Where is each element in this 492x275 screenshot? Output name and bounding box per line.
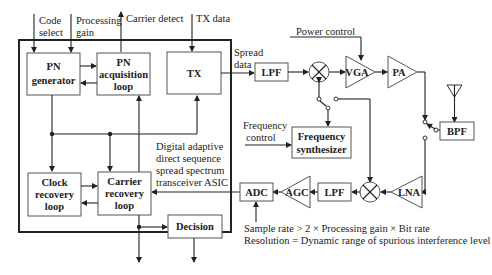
power-control-label: Power control <box>296 26 355 37</box>
lo-switch <box>317 82 338 110</box>
svg-text:recovery: recovery <box>35 189 75 200</box>
code-select-label: Code <box>39 15 62 26</box>
svg-text:loop: loop <box>114 81 133 92</box>
sample-rate-note: Sample rate > 2 × Processing gain × Bit … <box>244 223 430 234</box>
svg-text:synthesizer: synthesizer <box>296 144 346 155</box>
svg-text:Decision: Decision <box>176 221 214 232</box>
carrier-detect-label: Carrier detect <box>126 13 184 24</box>
svg-text:acquisition: acquisition <box>99 69 148 80</box>
svg-text:LPF: LPF <box>262 67 282 78</box>
tx-rx-switch <box>423 120 440 140</box>
transceiver-block-diagram: Code select Processing gain Carrier dete… <box>0 0 492 275</box>
svg-text:PA: PA <box>392 67 406 78</box>
svg-text:direct sequence: direct sequence <box>156 153 221 164</box>
svg-text:recovery: recovery <box>105 188 145 199</box>
svg-text:Clock: Clock <box>41 177 67 188</box>
svg-text:PN: PN <box>117 57 131 68</box>
svg-text:Carrier: Carrier <box>107 176 142 187</box>
asic-label: Digital adaptive <box>156 141 224 152</box>
antenna-icon <box>447 85 462 122</box>
svg-text:transceiver ASIC: transceiver ASIC <box>156 177 228 188</box>
svg-text:LPF: LPF <box>325 187 345 198</box>
svg-text:LNA: LNA <box>398 187 421 198</box>
svg-text:VGA: VGA <box>345 67 369 78</box>
frequency-control-label: Frequency <box>243 120 288 131</box>
svg-text:spread spectrum: spread spectrum <box>156 165 225 176</box>
svg-text:BPF: BPF <box>447 126 467 137</box>
svg-text:loop: loop <box>45 201 64 212</box>
tx-mixer <box>309 62 329 82</box>
svg-text:control: control <box>246 132 276 143</box>
code-select-label-2: select <box>39 27 63 38</box>
svg-text:loop: loop <box>115 200 134 211</box>
svg-text:generator: generator <box>32 75 76 86</box>
rx-mixer <box>360 182 380 202</box>
svg-text:Frequency: Frequency <box>298 131 346 142</box>
svg-text:PN: PN <box>47 61 61 72</box>
processing-gain-label: Processing <box>76 15 122 26</box>
svg-text:TX: TX <box>187 68 202 79</box>
resolution-note: Resolution = Dynamic range of spurious i… <box>244 235 491 246</box>
svg-text:data: data <box>234 59 252 70</box>
spread-data-label: Spread <box>234 47 264 58</box>
tx-data-label: TX data <box>196 13 230 24</box>
processing-gain-label-2: gain <box>76 27 95 38</box>
pn-generator-block <box>27 53 80 95</box>
svg-text:ADC: ADC <box>245 187 268 198</box>
svg-text:AGC: AGC <box>285 187 308 198</box>
